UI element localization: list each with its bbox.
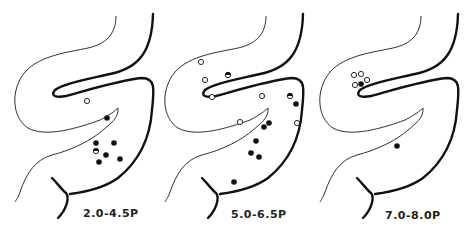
panel-1-label: 2.0-4.5P: [83, 207, 139, 220]
open-circle-marker: [294, 120, 299, 125]
filled-circle-marker: [266, 120, 272, 126]
filled-circle-marker: [253, 138, 259, 144]
filled-circle-marker: [104, 115, 110, 121]
open-circle-marker: [358, 71, 363, 76]
filled-circle-marker: [394, 143, 400, 149]
open-circle-marker: [259, 93, 264, 98]
open-circle-marker: [364, 77, 369, 82]
filled-circle-marker: [248, 150, 254, 156]
open-circle-marker: [84, 98, 89, 103]
open-circle-marker: [351, 72, 356, 77]
filled-circle-marker: [103, 152, 109, 158]
open-circle-marker: [237, 119, 242, 124]
open-circle-marker: [352, 82, 357, 87]
filled-circle-marker: [358, 81, 364, 87]
panel-3-outline: [320, 14, 459, 218]
filled-circle-marker: [93, 140, 99, 146]
filled-circle-marker: [96, 159, 102, 165]
sulcus-diagram: [0, 0, 467, 238]
panel-2-label: 5.0-6.5P: [231, 208, 287, 221]
filled-circle-marker: [256, 154, 262, 160]
filled-circle-marker: [117, 156, 123, 162]
open-circle-marker: [202, 77, 207, 82]
filled-circle-marker: [231, 179, 237, 185]
panel-3-label: 7.0-8.0P: [385, 209, 441, 222]
filled-circle-marker: [293, 101, 299, 107]
open-circle-marker: [198, 59, 203, 64]
panel-1-outline: [15, 14, 154, 218]
open-circle-marker: [209, 94, 214, 99]
filled-circle-marker: [111, 140, 117, 146]
panel-2-outline: [165, 14, 304, 218]
filled-circle-marker: [261, 124, 267, 130]
